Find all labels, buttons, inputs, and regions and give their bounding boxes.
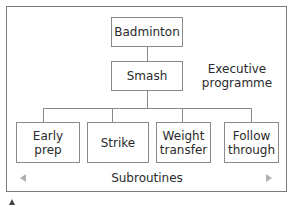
- arrow-left-icon: [20, 174, 26, 182]
- node-label: Smash: [127, 69, 168, 83]
- node-label: Strike: [101, 136, 136, 150]
- drop-weight-transfer: [182, 108, 183, 122]
- node-label: Follow through: [228, 129, 275, 157]
- node-badminton: Badminton: [111, 17, 183, 47]
- drop-follow-through: [251, 108, 252, 122]
- node-strike: Strike: [87, 122, 149, 163]
- node-label: Early prep: [25, 129, 71, 157]
- node-smash: Smash: [111, 61, 183, 91]
- subroutine-bar: [43, 108, 252, 109]
- node-weight-transfer: Weight transfer: [156, 122, 211, 163]
- node-follow-through: Follow through: [224, 122, 279, 163]
- caption-marker-icon: [9, 199, 15, 205]
- drop-early-prep: [43, 108, 44, 122]
- node-label: Weight transfer: [160, 129, 207, 157]
- connector-smash-bar: [147, 91, 148, 109]
- executive-programme-label: Executive programme: [198, 62, 276, 90]
- connector-root-smash: [147, 47, 148, 61]
- node-early-prep: Early prep: [16, 122, 80, 163]
- arrow-right-icon: [266, 174, 272, 182]
- node-label: Badminton: [114, 25, 179, 39]
- subroutines-label: Subroutines: [97, 171, 197, 185]
- drop-strike: [112, 108, 113, 122]
